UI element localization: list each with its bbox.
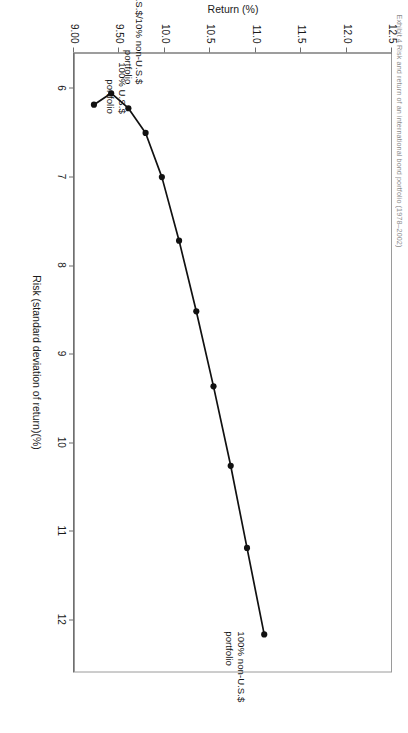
x-tick-mark (69, 353, 74, 354)
y-tick-label: 12.0 (341, 24, 352, 43)
annotation-non-us: 100% non-U.S.$ portfolio (224, 631, 247, 702)
data-point-marker[interactable] (210, 383, 216, 389)
x-tick-label: 7 (56, 173, 67, 179)
data-point-marker[interactable] (228, 462, 234, 468)
data-point-marker[interactable] (193, 308, 199, 314)
y-tick-label: 11.5 (296, 24, 307, 43)
series-line (94, 93, 264, 634)
figure-caption: Exhibit 4 Risk and return of an internat… (395, 14, 404, 714)
x-tick-mark (69, 530, 74, 531)
plot-area (75, 53, 391, 671)
x-axis-line (73, 52, 74, 672)
x-tick-label: 11 (56, 525, 67, 535)
y-tick-mark (391, 47, 392, 52)
data-point-marker[interactable] (159, 174, 165, 180)
x-tick-mark (69, 87, 74, 88)
series-efficient-frontier (74, 53, 391, 671)
x-tick-label: 10 (56, 436, 67, 447)
y-tick-mark (255, 47, 256, 52)
chart-stage: Exhibit 4 Risk and return of an internat… (0, 0, 408, 733)
x-tick-label: 6 (56, 85, 67, 91)
x-tick-label: 12 (56, 613, 67, 624)
data-point-marker[interactable] (91, 101, 97, 107)
annotation-us: 100% U.S.$ portfolio (105, 62, 128, 114)
y-tick-mark (209, 47, 210, 52)
y-tick-label: 12.5 (387, 24, 398, 43)
y-tick-label: 9.00 (69, 24, 80, 43)
plot-frame (74, 52, 392, 672)
x-tick-mark (69, 619, 74, 620)
x-tick-label: 8 (56, 262, 67, 268)
data-point-marker[interactable] (176, 237, 182, 243)
y-tick-label: 10.5 (205, 24, 216, 43)
y-axis-title: Return (%) (208, 2, 259, 14)
x-tick-mark (69, 176, 74, 177)
y-tick-mark (300, 47, 301, 52)
data-point-marker[interactable] (261, 631, 267, 637)
y-tick-mark (164, 47, 165, 52)
y-tick-mark (73, 47, 74, 52)
data-point-marker[interactable] (244, 544, 250, 550)
y-tick-label: 11.0 (250, 24, 261, 43)
y-tick-label: 10.0 (159, 24, 170, 43)
x-tick-mark (69, 265, 74, 266)
y-tick-mark (118, 47, 119, 52)
x-tick-mark (69, 442, 74, 443)
y-tick-mark (346, 47, 347, 52)
x-tick-label: 9 (56, 350, 67, 356)
x-axis-title: Risk (standard deviation of return)(%) (31, 275, 43, 450)
